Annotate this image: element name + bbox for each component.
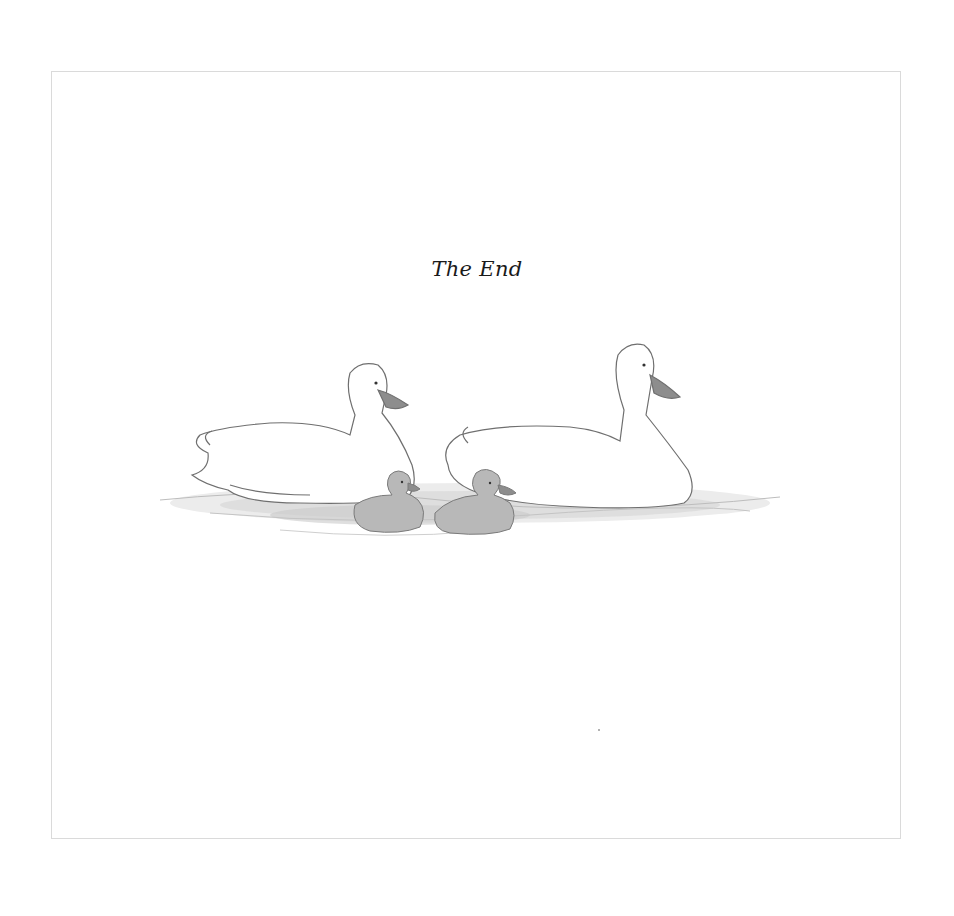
page-title: The End	[0, 257, 954, 281]
paper-speck	[598, 729, 600, 731]
ducks-illustration	[150, 335, 790, 575]
left-duck-icon	[192, 364, 414, 504]
